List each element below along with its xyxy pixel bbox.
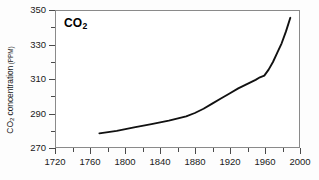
x-tick-minor <box>178 148 179 152</box>
y-tick-major <box>49 114 55 115</box>
y-tick-minor <box>51 131 55 132</box>
x-tick-major <box>230 148 231 154</box>
y-axis-title-main: CO2 concentration <box>5 66 15 134</box>
x-tick-label: 1760 <box>70 156 110 167</box>
series-polyline <box>99 18 290 134</box>
x-tick-label: 1840 <box>140 156 180 167</box>
y-tick-label: 310 <box>16 73 46 84</box>
x-tick-label: 1920 <box>210 156 250 167</box>
y-tick-major <box>49 79 55 80</box>
x-tick-major <box>160 148 161 154</box>
y-tick-label: 350 <box>16 4 46 15</box>
x-tick-label: 1960 <box>245 156 285 167</box>
y-tick-minor <box>51 27 55 28</box>
co2-curve <box>56 11 299 147</box>
y-tick-minor <box>51 96 55 97</box>
y-tick-label: 290 <box>16 108 46 119</box>
x-tick-major <box>125 148 126 154</box>
chart-figure: CO2 concentration(PPM) CO2 2702903103303… <box>0 0 319 180</box>
y-tick-major <box>49 45 55 46</box>
x-tick-minor <box>213 148 214 152</box>
x-tick-minor <box>108 148 109 152</box>
x-tick-minor <box>73 148 74 152</box>
x-tick-major <box>195 148 196 154</box>
x-tick-label: 2000 <box>280 156 319 167</box>
y-tick-minor <box>51 62 55 63</box>
x-tick-minor <box>143 148 144 152</box>
y-tick-major <box>49 10 55 11</box>
x-tick-major <box>90 148 91 154</box>
y-tick-label: 270 <box>16 142 46 153</box>
x-tick-major <box>55 148 56 154</box>
y-tick-label: 330 <box>16 39 46 50</box>
x-tick-label: 1880 <box>175 156 215 167</box>
x-tick-major <box>300 148 301 154</box>
x-tick-label: 1720 <box>35 156 75 167</box>
x-tick-minor <box>248 148 249 152</box>
y-axis-title-unit: (PPM) <box>7 46 14 64</box>
x-tick-label: 1800 <box>105 156 145 167</box>
x-tick-minor <box>283 148 284 152</box>
plot-area: CO2 <box>55 10 300 148</box>
y-axis-title: CO2 concentration(PPM) <box>2 0 18 180</box>
x-tick-major <box>265 148 266 154</box>
